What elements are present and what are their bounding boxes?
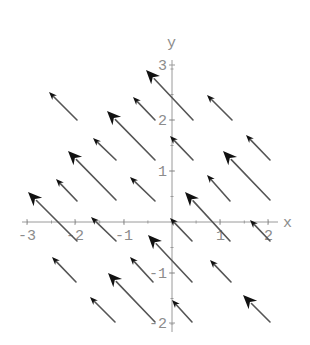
vector-arrow: [56, 179, 77, 201]
arrow-shaft: [95, 221, 116, 241]
vector-arrow: [49, 92, 77, 120]
vector-arrow: [246, 135, 270, 160]
arrow-shaft: [56, 261, 76, 282]
x-tick-label: -3: [18, 228, 36, 245]
vector-arrow: [130, 177, 155, 201]
vector-arrow: [108, 273, 155, 322]
vector-arrow: [107, 111, 155, 160]
vector-arrow: [243, 295, 270, 322]
arrow-shaft: [36, 200, 77, 241]
arrow-shaft: [134, 181, 155, 201]
vector-arrow: [207, 95, 232, 120]
vector-arrow: [91, 217, 116, 241]
arrow-shaft: [97, 142, 116, 160]
vector-arrow: [207, 175, 230, 201]
arrow-shaft: [174, 222, 192, 241]
vector-arrow: [133, 97, 155, 120]
arrow-shaft: [115, 120, 155, 160]
arrow-shaft: [137, 101, 155, 120]
arrow-shaft: [250, 139, 270, 160]
x-axis-label: x: [283, 215, 292, 232]
arrow-shaft: [94, 301, 115, 322]
arrow-shaft: [214, 264, 231, 282]
vector-arrow: [52, 257, 76, 282]
arrow-shaft: [176, 304, 192, 322]
vector-arrow: [146, 70, 193, 120]
arrow-shaft: [174, 140, 193, 160]
arrow-shaft: [211, 179, 230, 201]
vector-arrows: [28, 70, 270, 322]
arrow-shaft: [53, 96, 77, 120]
vector-arrow: [210, 260, 231, 282]
arrow-shaft: [116, 282, 155, 322]
vector-field-plot: -3-2-112 321-1-2 x y: [0, 0, 310, 345]
arrow-shaft: [193, 201, 230, 241]
vector-arrow: [170, 218, 192, 241]
x-ticks: -3-2-112: [18, 219, 273, 245]
vector-arrow: [90, 297, 115, 322]
vector-arrow: [170, 136, 193, 160]
x-tick-label: -1: [115, 228, 133, 245]
arrow-shaft: [231, 160, 270, 200]
y-ticks: 321-1-2: [149, 58, 175, 333]
y-tick-label: 1: [158, 164, 167, 181]
arrow-shaft: [211, 99, 232, 120]
arrow-shaft: [76, 160, 116, 200]
y-tick-label: 2: [158, 113, 167, 130]
y-tick-label: 3: [158, 58, 167, 75]
vector-arrow: [93, 138, 116, 160]
vector-arrow: [223, 151, 270, 200]
x-tick-label: -2: [66, 228, 84, 245]
arrow-shaft: [60, 183, 77, 201]
vector-arrow: [68, 151, 116, 200]
y-axis-label: y: [167, 35, 176, 52]
arrow-shaft: [251, 303, 270, 322]
vector-arrow: [185, 192, 230, 241]
vector-arrow: [172, 300, 192, 322]
